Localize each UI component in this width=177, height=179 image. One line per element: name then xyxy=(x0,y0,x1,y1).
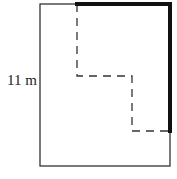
diagram-canvas xyxy=(0,0,177,179)
height-label: 11 m xyxy=(7,72,37,89)
outer-rectangle xyxy=(40,4,170,166)
thick-boundary-path xyxy=(77,4,170,131)
floor-plan-diagram: 11 m xyxy=(0,0,177,179)
dashed-path xyxy=(77,4,170,131)
